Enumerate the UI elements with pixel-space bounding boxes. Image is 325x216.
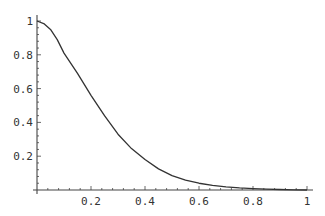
data-curve — [37, 21, 307, 190]
x-tick-label: 0.4 — [135, 195, 155, 208]
minor-ticks — [37, 21, 307, 190]
axes — [33, 15, 313, 194]
x-tick-label: 0.8 — [243, 195, 263, 208]
x-tick-label: 0.2 — [81, 195, 101, 208]
y-tick-label: 0.4 — [13, 116, 33, 129]
y-tick-label: 0.8 — [13, 49, 33, 62]
y-tick-label: 0.2 — [13, 150, 33, 163]
x-axis-tick-labels: 0.2 0.4 0.6 0.8 1 — [81, 195, 310, 208]
y-tick-label: 0.6 — [13, 83, 33, 96]
x-tick-label: 0.6 — [189, 195, 209, 208]
y-tick-label: 1 — [26, 15, 33, 28]
y-axis-tick-labels: 0.2 0.4 0.6 0.8 1 — [13, 15, 33, 163]
line-chart: 0.2 0.4 0.6 0.8 1 0.2 0.4 0.6 0.8 1 — [0, 0, 325, 216]
x-tick-label: 1 — [304, 195, 311, 208]
